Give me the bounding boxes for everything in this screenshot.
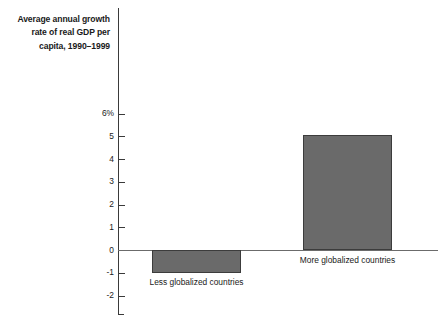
y-tick-label: 4 — [84, 155, 114, 164]
y-axis-line — [118, 8, 119, 315]
y-tick-label: 0 — [84, 246, 114, 255]
y-tick-label: 6% — [84, 109, 114, 118]
y-tick-label: 1 — [84, 223, 114, 232]
y-tick-mark — [119, 114, 125, 115]
y-tick-mark — [119, 296, 125, 297]
y-tick-label: -2 — [84, 291, 114, 300]
y-tick-label: 2 — [84, 200, 114, 209]
y-tick-mark — [119, 273, 125, 274]
y-tick-label: 3 — [84, 177, 114, 186]
plot-area: 6%543210-1-2 Less globalized countriesMo… — [0, 0, 448, 329]
bar-category-label: More globalized countries — [258, 255, 438, 265]
y-axis-foot-serif — [118, 314, 124, 315]
bar-category-label: Less globalized countries — [107, 277, 287, 287]
y-tick-mark — [119, 159, 125, 160]
y-tick-mark — [119, 136, 125, 137]
y-tick-mark — [119, 182, 125, 183]
y-tick-label: 5 — [84, 132, 114, 141]
y-tick-mark — [119, 205, 125, 206]
bar — [303, 135, 392, 250]
y-tick-mark — [119, 227, 125, 228]
bar — [152, 250, 241, 273]
